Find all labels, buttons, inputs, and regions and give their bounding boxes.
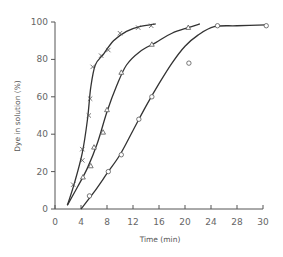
curve-circle (81, 25, 266, 209)
x-tick-label: 16 (153, 217, 165, 227)
y-ticks: 020406080100 (31, 17, 55, 214)
circle-marker (150, 95, 154, 99)
circle-marker (87, 194, 91, 198)
x-tick-label: 28 (231, 217, 243, 227)
circle-marker (137, 117, 141, 121)
triangle-marker (81, 175, 86, 179)
dye-release-chart: 020406080100 048121620242830 Time (min) … (0, 0, 283, 257)
y-axis-label: Dye in solution (%) (13, 80, 22, 152)
circle-marker (106, 169, 110, 173)
x-tick-label: 4 (78, 217, 84, 227)
x-ticks: 048121620242830 (52, 205, 269, 227)
y-tick-label: 100 (31, 17, 48, 27)
x-tick-label: 24 (205, 217, 217, 227)
circle-marker (119, 153, 123, 157)
y-tick-label: 0 (42, 204, 48, 214)
x-tick-label: 0 (52, 217, 58, 227)
x-tick-label: 30 (257, 217, 269, 227)
circle-marker (187, 61, 191, 65)
axes (55, 22, 263, 209)
x-tick-label: 12 (127, 217, 138, 227)
curve-triangle (67, 24, 200, 205)
data-markers (71, 24, 268, 199)
circle-marker (264, 24, 268, 28)
curves (67, 24, 266, 209)
x-tick-label: 20 (179, 217, 191, 227)
cross-marker (87, 113, 91, 117)
y-tick-label: 60 (37, 92, 49, 102)
y-tick-label: 80 (37, 54, 49, 64)
y-tick-label: 20 (37, 167, 49, 177)
circle-marker (215, 24, 219, 28)
y-tick-label: 40 (37, 129, 49, 139)
x-tick-label: 8 (104, 217, 110, 227)
x-axis-label: Time (min) (139, 235, 181, 244)
curve-cross (67, 24, 155, 205)
